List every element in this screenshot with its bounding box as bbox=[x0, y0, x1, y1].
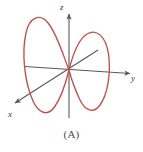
z-axis-label: z bbox=[60, 3, 64, 12]
y-axis-line bbox=[25, 67, 130, 74]
y-axis-label: y bbox=[131, 74, 135, 83]
space-curve-left-lobe bbox=[24, 17, 69, 112]
figure-container: z y x (A) bbox=[0, 0, 143, 152]
figure-caption: (A) bbox=[0, 128, 143, 140]
x-axis-label: x bbox=[8, 110, 12, 119]
x-axis-line bbox=[15, 50, 98, 103]
